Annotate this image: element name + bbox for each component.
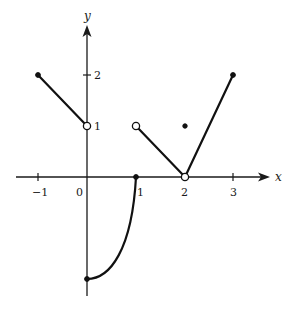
segment-4 bbox=[181, 73, 235, 181]
open-endpoint bbox=[132, 122, 139, 129]
x-tick-label: 2 bbox=[181, 186, 188, 199]
closed-endpoint bbox=[134, 175, 139, 180]
closed-endpoint bbox=[36, 73, 41, 78]
curve-2 bbox=[85, 175, 139, 282]
x-axis-label: x bbox=[275, 170, 282, 184]
x-tick-label: −1 bbox=[32, 186, 48, 199]
closed-endpoint bbox=[231, 73, 236, 78]
open-endpoint bbox=[83, 122, 90, 129]
y-axis-label: y bbox=[83, 9, 91, 23]
function-graph: x y −1 0 1 2 3 1 2 bbox=[0, 0, 293, 312]
x-axis: x bbox=[16, 170, 282, 184]
isolated-point bbox=[183, 124, 187, 128]
segment-1 bbox=[36, 73, 91, 130]
open-endpoint bbox=[181, 173, 188, 180]
x-tick-label: 0 bbox=[76, 186, 83, 199]
segment-3 bbox=[132, 122, 185, 177]
closed-endpoint bbox=[85, 277, 90, 282]
x-tick-label: 1 bbox=[137, 186, 144, 199]
y-tick-label: 1 bbox=[94, 120, 101, 133]
y-tick-label: 2 bbox=[94, 69, 101, 82]
y-axis: y bbox=[83, 9, 92, 296]
x-tick-label: 3 bbox=[230, 186, 237, 199]
